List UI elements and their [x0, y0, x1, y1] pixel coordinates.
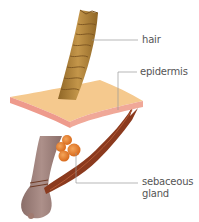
sebaceous-label-line1: sebaceous	[142, 176, 193, 187]
hair-follicle	[21, 136, 62, 219]
diagram-illustration	[0, 0, 199, 222]
sebaceous-label-line2: gland	[142, 188, 169, 199]
epidermis-label: epidermis	[140, 66, 188, 77]
hair-label: hair	[142, 34, 161, 45]
hair-follicle-diagram: hair epidermis sebaceous gland	[0, 0, 199, 222]
hair-bulb-papilla	[28, 213, 34, 219]
